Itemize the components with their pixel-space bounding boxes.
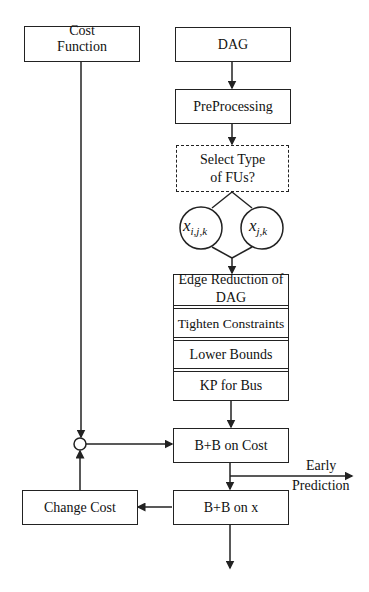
change-cost-label: Change Cost — [44, 499, 116, 517]
cost-function-label: Cost Function — [52, 23, 112, 55]
edge-xijk-to-merge — [212, 247, 232, 258]
xijk-label: xi,j,k — [183, 216, 207, 237]
bb-on-x-label: B+B on x — [204, 499, 259, 517]
edge-reduction-section: Edge Reduction of DAG — [174, 271, 288, 307]
tighten-constraints-label: Tighten Constraints — [178, 315, 284, 332]
processing-stack: Edge Reduction of DAG Tighten Constraint… — [173, 274, 289, 401]
xjk-var: x — [249, 216, 257, 235]
edge-select-to-xjk — [232, 192, 252, 208]
lower-bounds-section: Lower Bounds — [174, 340, 288, 369]
cost-function-box: Cost Function — [24, 26, 140, 62]
dag-box: DAG — [175, 27, 291, 62]
junction-circle — [74, 438, 86, 450]
select-type-label: Select Type of FUs? — [193, 151, 273, 187]
edge-xjk-to-merge — [232, 247, 252, 258]
dag-label: DAG — [218, 36, 248, 54]
prediction-label: Prediction — [292, 478, 350, 494]
kp-for-bus-label: KP for Bus — [200, 377, 263, 394]
change-cost-box: Change Cost — [22, 490, 138, 525]
tighten-constraints-section: Tighten Constraints — [174, 308, 288, 338]
preprocessing-label: PreProcessing — [193, 98, 272, 116]
edge-select-to-xijk — [212, 192, 232, 208]
kp-for-bus-section: KP for Bus — [174, 371, 288, 400]
select-type-box: Select Type of FUs? — [176, 145, 289, 192]
lower-bounds-label: Lower Bounds — [190, 346, 273, 363]
xjk-sub: j,k — [257, 225, 268, 237]
bb-on-x-box: B+B on x — [173, 490, 289, 525]
xijk-var: x — [183, 216, 191, 235]
early-label: Early — [306, 458, 336, 474]
bb-on-cost-label: B+B on Cost — [194, 437, 267, 455]
preprocessing-box: PreProcessing — [175, 89, 291, 124]
xjk-label: xj,k — [249, 216, 267, 237]
bb-on-cost-box: B+B on Cost — [173, 428, 289, 463]
xijk-sub: i,j,k — [191, 225, 208, 237]
edge-reduction-label: Edge Reduction of DAG — [176, 271, 286, 307]
